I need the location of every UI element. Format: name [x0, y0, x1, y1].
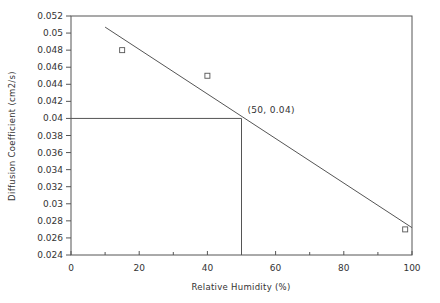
y-tick-label: 0.038 [37, 131, 63, 141]
x-tick-label: 40 [202, 263, 214, 273]
square-marker [120, 48, 125, 53]
x-tick-label: 60 [270, 263, 282, 273]
y-tick-label: 0.03 [43, 199, 63, 209]
y-tick-label: 0.028 [37, 216, 63, 226]
square-marker [403, 227, 408, 232]
fit-line [105, 27, 412, 228]
y-tick-label: 0.042 [37, 96, 63, 106]
x-axis-ticks: 020406080100 [68, 251, 421, 273]
y-tick-label: 0.032 [37, 182, 63, 192]
y-tick-label: 0.026 [37, 233, 63, 243]
y-tick-label: 0.048 [37, 45, 63, 55]
x-tick-label: 0 [68, 263, 74, 273]
intersection-annotation: (50, 0.04) [248, 105, 295, 115]
y-tick-label: 0.044 [37, 79, 63, 89]
fit-line-path [105, 27, 412, 228]
y-tick-label: 0.046 [37, 62, 63, 72]
y-tick-label: 0.05 [43, 28, 63, 38]
y-tick-label: 0.052 [37, 11, 63, 21]
square-marker [205, 73, 210, 78]
reference-lines [71, 118, 242, 255]
y-axis-ticks: 0.0240.0260.0280.030.0320.0340.0360.0380… [37, 11, 71, 260]
y-tick-label: 0.024 [37, 250, 63, 260]
y-tick-label: 0.034 [37, 165, 63, 175]
x-tick-label: 20 [133, 263, 145, 273]
x-tick-label: 100 [403, 263, 420, 273]
y-tick-label: 0.04 [43, 113, 63, 123]
x-tick-label: 80 [338, 263, 350, 273]
y-axis-title: Diffusion Coefficient (cm2/s) [7, 71, 17, 201]
x-axis-title: Relative Humidity (%) [191, 282, 290, 292]
data-markers [120, 48, 408, 232]
diffusion-chart: 0.0240.0260.0280.030.0320.0340.0360.0380… [0, 0, 440, 303]
y-tick-label: 0.036 [37, 148, 63, 158]
